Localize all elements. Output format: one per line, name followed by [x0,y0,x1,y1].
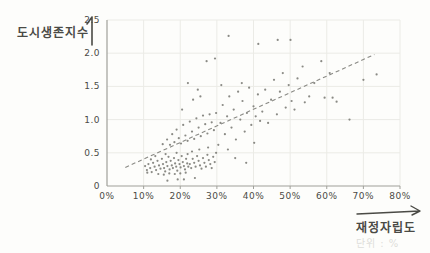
trend-line [125,55,374,168]
x-axis-label: 재정자립도 [356,218,416,235]
svg-text:70%: 70% [353,191,375,201]
svg-text:1.0: 1.0 [84,115,100,125]
svg-text:10%: 10% [133,191,155,201]
x-axis-arrow-icon [357,206,420,215]
svg-text:40%: 40% [243,191,265,201]
svg-text:20%: 20% [169,191,191,201]
svg-text:60%: 60% [316,191,338,201]
svg-text:0.5: 0.5 [84,148,100,158]
svg-text:80%: 80% [389,191,411,201]
gridlines [107,20,400,186]
svg-text:50%: 50% [279,191,301,201]
svg-text:0: 0 [94,181,100,191]
svg-text:30%: 30% [206,191,228,201]
x-tick-labels: 0%10%20%30%40%50%60%70%80% [99,191,410,201]
svg-text:1.5: 1.5 [84,81,100,91]
svg-text:0%: 0% [99,191,114,201]
scatter-points [144,35,378,182]
y-axis-label: 도시생존지수 [17,23,89,40]
unit-note: 단위 : % [356,235,399,250]
scatter-chart: 0%10%20%30%40%50%60%70%80%00.51.01.52.02… [0,0,430,253]
svg-text:2.0: 2.0 [84,48,100,58]
